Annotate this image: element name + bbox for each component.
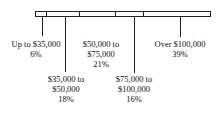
label-75k-100k: $75,000 to $100,000 16% bbox=[104, 74, 164, 104]
leader-line bbox=[134, 17, 135, 73]
segment-divider bbox=[79, 11, 80, 17]
label-35k-50k: $35,000 to $50,000 18% bbox=[36, 74, 96, 104]
segment-divider bbox=[46, 11, 47, 17]
leader-line bbox=[180, 17, 181, 37]
segment-divider bbox=[115, 11, 116, 17]
segment-divider bbox=[143, 11, 144, 17]
label-50k-75k: $50,000 to $75,000 21% bbox=[71, 39, 131, 69]
label-up-to-35k: Up to $35,000 6% bbox=[6, 39, 66, 59]
leader-line bbox=[42, 17, 43, 36]
label-over-100k: Over $100,000 39% bbox=[148, 39, 212, 59]
stacked-bar bbox=[35, 11, 211, 17]
